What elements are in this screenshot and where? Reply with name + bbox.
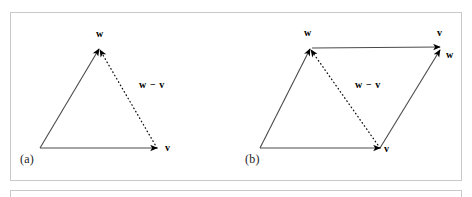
panel-a-label-v: v [165, 142, 170, 153]
panel-b-label-w-minus-v: w − v [355, 79, 381, 90]
figure-frame-next [10, 190, 462, 197]
figure-root: w v w − v w v w v w − v (a) (b) [0, 0, 472, 197]
panel-b-caption: (b) [245, 152, 260, 167]
panel-b-label-v-top-right: v [437, 27, 442, 38]
panel-b-label-w-right: w [446, 49, 454, 60]
panel-a-caption: (a) [20, 152, 34, 167]
panel-a-label-w-minus-v: w − v [139, 79, 165, 90]
figure-frame [10, 12, 462, 181]
panel-b-label-v-bottom: v [384, 143, 389, 154]
panel-a-label-w: w [96, 28, 104, 39]
panel-b-label-w-top-left: w [304, 27, 312, 38]
